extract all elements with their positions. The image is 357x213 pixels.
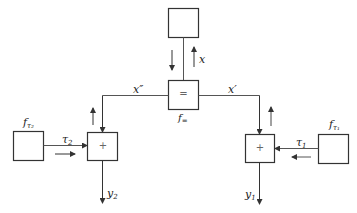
right-plus-symbol: + xyxy=(245,143,275,153)
label-sub: 2 xyxy=(113,193,117,201)
label-sub: 2 xyxy=(68,139,72,147)
edge-label-x-double-prime: x″ xyxy=(133,84,143,95)
equality-symbol: = xyxy=(168,89,199,99)
right-factor-caption: fτ₁ xyxy=(329,119,340,132)
edge-label-y2: y2 xyxy=(107,188,118,201)
label-sub: 1 xyxy=(251,194,255,202)
equality-node-caption: f= xyxy=(178,113,188,125)
edge-label-tau2: τ2 xyxy=(62,134,73,147)
edge-label-x: x xyxy=(199,54,205,65)
edge-label-x-prime: x′ xyxy=(228,84,237,95)
edge-label-y1: y1 xyxy=(245,189,256,202)
left-plus-symbol: + xyxy=(88,141,118,151)
right-factor-box xyxy=(319,135,349,164)
factor-graph-canvas xyxy=(0,0,357,213)
caption-sub: τ₁ xyxy=(333,124,340,132)
caption-sub: = xyxy=(182,117,188,125)
caption-sub: τ₂ xyxy=(27,122,34,130)
left-factor-box xyxy=(14,132,44,161)
edge-label-tau1: τ1 xyxy=(296,137,307,150)
label-sub: 1 xyxy=(302,142,306,150)
left-factor-caption: fτ₂ xyxy=(23,117,34,130)
top-node-box xyxy=(169,9,199,38)
